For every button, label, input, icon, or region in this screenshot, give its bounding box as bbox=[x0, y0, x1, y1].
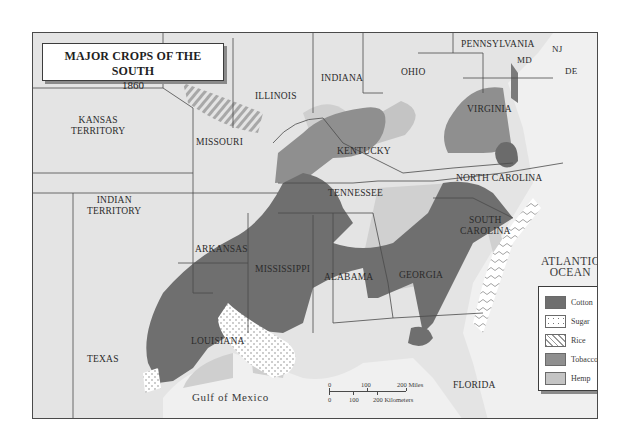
label-arkansas: ARKANSAS bbox=[195, 244, 248, 255]
legend-item-sugar: Sugar bbox=[545, 312, 598, 331]
label-de: DE bbox=[565, 66, 577, 77]
label-mississippi: MISSISSIPPI bbox=[255, 264, 310, 275]
label-georgia: GEORGIA bbox=[399, 270, 443, 281]
label-gulf-of-mexico: Gulf of Mexico bbox=[192, 392, 269, 403]
legend-item-hemp: Hemp bbox=[545, 369, 598, 388]
label-virginia: VIRGINIA bbox=[467, 104, 512, 115]
map-title-box: MAJOR CROPS OF THE SOUTH 1860 bbox=[42, 43, 224, 81]
legend-item-cotton: Cotton bbox=[545, 293, 598, 312]
scale-bar: 0 100 200 Miles 0 100 200 Kilometers bbox=[328, 381, 438, 417]
map-title: MAJOR CROPS OF THE SOUTH bbox=[43, 49, 223, 79]
label-missouri: MISSOURI bbox=[196, 137, 243, 148]
label-nj: NJ bbox=[552, 44, 562, 55]
label-north-carolina: NORTH CAROLINA bbox=[456, 173, 542, 184]
legend-item-rice: Rice bbox=[545, 331, 598, 350]
label-florida: FLORIDA bbox=[453, 380, 496, 391]
legend-item-tobacco: Tobacco bbox=[545, 350, 598, 369]
hemp-swatch-icon bbox=[545, 372, 566, 385]
label-indian-territory: INDIANTERRITORY bbox=[87, 195, 141, 217]
label-atlantic-ocean: ATLANTICOCEAN bbox=[541, 256, 598, 278]
scale-line bbox=[329, 391, 406, 392]
legend: Cotton Sugar Rice Tobacco Hemp bbox=[538, 286, 598, 391]
rice-swatch-icon bbox=[545, 334, 566, 347]
map-year: 1860 bbox=[43, 79, 223, 91]
crop-map: MAJOR CROPS OF THE SOUTH 1860 ILLINOIS I… bbox=[32, 32, 598, 419]
label-md: MD bbox=[517, 55, 532, 66]
label-south-carolina: SOUTHCAROLINA bbox=[460, 215, 511, 237]
label-alabama: ALABAMA bbox=[324, 272, 373, 283]
label-illinois: ILLINOIS bbox=[255, 91, 297, 102]
label-louisiana: LOUISIANA bbox=[191, 336, 245, 347]
label-tennessee: TENNESSEE bbox=[328, 188, 383, 199]
label-kentucky: KENTUCKY bbox=[337, 146, 391, 157]
label-ohio: OHIO bbox=[401, 67, 426, 78]
tobacco-swatch-icon bbox=[545, 353, 566, 366]
sugar-swatch-icon bbox=[545, 315, 566, 328]
label-texas: TEXAS bbox=[87, 354, 119, 365]
cotton-swatch-icon bbox=[545, 296, 566, 309]
label-pennsylvania: PENNSYLVANIA bbox=[461, 39, 535, 50]
label-kansas: KANSASTERRITORY bbox=[71, 115, 125, 137]
label-indiana: INDIANA bbox=[321, 73, 363, 84]
